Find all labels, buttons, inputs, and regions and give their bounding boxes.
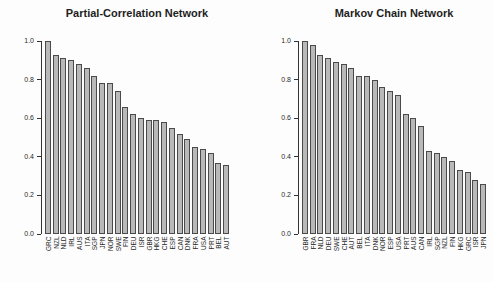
bar-NLD xyxy=(60,58,66,234)
bar-USA xyxy=(395,95,401,234)
bar-ESP xyxy=(169,128,175,234)
chart-panel-markov-chain: Markov Chain Network 0.00.20.40.60.81.0 … xyxy=(247,0,493,282)
bar-GBR xyxy=(302,41,308,234)
bar-NZL xyxy=(53,55,59,234)
y-tick-label: 0.4 xyxy=(18,153,34,161)
bar-SWE xyxy=(115,91,121,234)
bar-JPN xyxy=(99,83,105,234)
y-tick-mark xyxy=(294,156,298,157)
x-label-AUT: AUT xyxy=(222,237,231,263)
chart-title: Markov Chain Network xyxy=(301,7,487,19)
bar-USA xyxy=(200,149,206,234)
bar-DNK xyxy=(372,80,378,234)
bar-GRC xyxy=(45,41,51,234)
bar-ISR xyxy=(472,180,478,234)
y-tick-label: 0.0 xyxy=(275,230,291,238)
bar-AUT xyxy=(223,165,229,234)
y-tick-label: 1.0 xyxy=(18,37,34,45)
bar-NZL xyxy=(441,157,447,234)
bar-GBR xyxy=(146,120,152,234)
bar-CAN xyxy=(418,126,424,234)
bar-JPN xyxy=(480,184,486,234)
bar-AUS xyxy=(76,64,82,234)
y-tick-mark xyxy=(294,234,298,235)
bar-HKG xyxy=(153,120,159,234)
bar-ISR xyxy=(138,118,144,234)
bar-IRL xyxy=(426,151,432,234)
y-tick-mark xyxy=(37,79,41,80)
bar-SGP xyxy=(91,76,97,234)
bar-ESP xyxy=(387,91,393,234)
bar-ITA xyxy=(84,68,90,234)
y-tick-label: 0.0 xyxy=(18,230,34,238)
y-tick-label: 1.0 xyxy=(275,37,291,45)
y-tick-mark xyxy=(37,118,41,119)
bar-CHE xyxy=(341,64,347,234)
y-tick-label: 0.2 xyxy=(275,191,291,199)
bar-SGP xyxy=(434,153,440,234)
y-tick-label: 0.6 xyxy=(18,114,34,122)
bar-PRT xyxy=(208,153,214,234)
bar-DNK xyxy=(184,139,190,234)
y-tick-mark xyxy=(294,118,298,119)
bar-NOR xyxy=(379,87,385,234)
chart-panel-partial-correlation: Partial-Correlation Network 0.00.20.40.6… xyxy=(0,0,246,282)
bar-AUS xyxy=(410,118,416,234)
bar-FRA xyxy=(192,147,198,234)
figure: Partial-Correlation Network 0.00.20.40.6… xyxy=(0,0,493,282)
x-label-JPN: JPN xyxy=(479,237,488,263)
bar-HKG xyxy=(457,170,463,234)
x-axis-labels: GRCNZLNLDIRLAUSITASGPJPNNORSWEFINDEUISRG… xyxy=(44,234,230,274)
y-tick-label: 0.2 xyxy=(18,191,34,199)
bar-CAN xyxy=(177,134,183,234)
bar-GRC xyxy=(465,172,471,234)
y-tick-mark xyxy=(37,195,41,196)
bar-NLD xyxy=(317,55,323,234)
plot-area: 0.00.20.40.60.81.0 GBRFRANLDDEUSWECHEAUT… xyxy=(301,41,487,234)
y-tick-mark xyxy=(37,234,41,235)
bar-PRT xyxy=(403,114,409,234)
y-tick-label: 0.8 xyxy=(275,76,291,84)
bar-CHE xyxy=(161,122,167,234)
bar-FRA xyxy=(310,45,316,234)
chart-title: Partial-Correlation Network xyxy=(44,7,230,19)
y-tick-mark xyxy=(294,195,298,196)
y-tick-label: 0.8 xyxy=(18,76,34,84)
y-axis-line xyxy=(41,41,42,234)
y-axis-line xyxy=(298,41,299,234)
bar-FIN xyxy=(122,107,128,234)
y-tick-mark xyxy=(294,79,298,80)
y-tick-mark xyxy=(37,41,41,42)
bar-SWE xyxy=(333,62,339,234)
y-tick-label: 0.6 xyxy=(275,114,291,122)
bar-NOR xyxy=(107,83,113,234)
bar-DEU xyxy=(130,114,136,234)
y-tick-mark xyxy=(37,156,41,157)
bar-ITA xyxy=(364,76,370,234)
bar-FIN xyxy=(449,161,455,234)
bar-IRL xyxy=(68,60,74,234)
bar-DEU xyxy=(325,58,331,234)
y-tick-label: 0.4 xyxy=(275,153,291,161)
plot-area: 0.00.20.40.60.81.0 GRCNZLNLDIRLAUSITASGP… xyxy=(44,41,230,234)
bar-AUT xyxy=(348,68,354,234)
bar-BEL xyxy=(215,163,221,234)
x-axis-labels: GBRFRANLDDEUSWECHEAUTBELITADNKNORESPUSAP… xyxy=(301,234,487,274)
y-tick-mark xyxy=(294,41,298,42)
bar-BEL xyxy=(356,76,362,234)
